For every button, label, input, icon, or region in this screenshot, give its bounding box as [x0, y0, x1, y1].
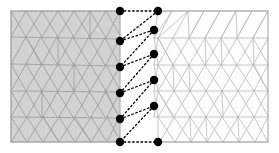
- interface-node-right: [154, 7, 162, 15]
- interface-node-left: [116, 138, 124, 146]
- interface-node-right: [150, 26, 158, 34]
- interface-node-left: [116, 7, 124, 15]
- mesh-diagram: [0, 0, 279, 153]
- left-domain: [11, 11, 120, 142]
- right-domain: [154, 11, 268, 142]
- interface-node-left: [116, 37, 124, 45]
- mesh-figure: [0, 0, 279, 153]
- interface-node-right: [150, 50, 158, 58]
- interface-node-left: [116, 115, 124, 123]
- interface-node-right: [150, 102, 158, 110]
- interface-node-left: [116, 63, 124, 71]
- interface-node-left: [116, 89, 124, 97]
- interface-node-right: [150, 76, 158, 84]
- interface-node-right: [154, 138, 162, 146]
